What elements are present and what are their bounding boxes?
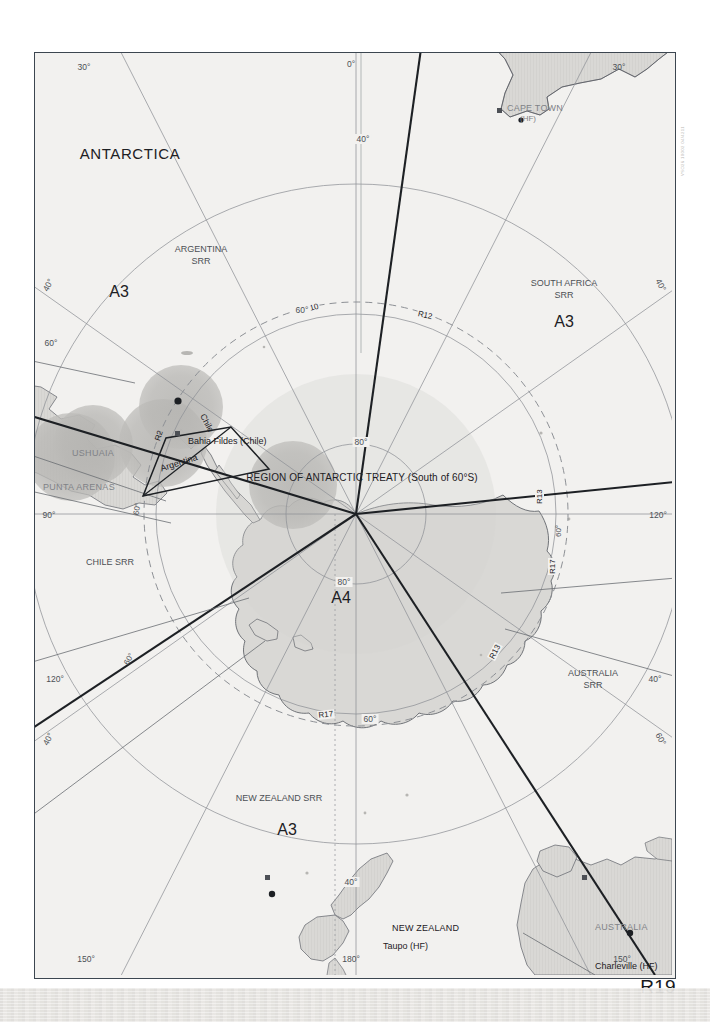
- meridian-label-150w-bottom: 150°: [77, 954, 95, 964]
- route-label-r13-east: R13: [535, 488, 544, 505]
- meridian-label-0-top: 0°: [347, 59, 355, 69]
- station-label-taupo: Taupo (HF): [383, 941, 428, 951]
- treaty-region-label: REGION OF ANTARCTIC TREATY (South of 60°…: [246, 472, 477, 483]
- srr-label-australia: AUSTRALIA: [568, 668, 618, 678]
- meridian-label-120e-right: 40°: [649, 674, 662, 684]
- latitude-label-40s-bottom: 40°: [343, 877, 360, 887]
- map-frame: ANTARCTICA ARGENTINA SRR SOUTH AFRICA SR…: [34, 52, 676, 979]
- airspace-class-a4-treaty: A4: [331, 589, 351, 607]
- srr-label-chile: CHILE SRR: [86, 557, 134, 567]
- meridian-label-60-left: 60°: [45, 338, 58, 348]
- meridian-label-30w-top: 30°: [78, 62, 91, 72]
- latitude-label-60s-bottom: 60°: [362, 714, 379, 724]
- route-label-r17-east: R17: [548, 558, 557, 575]
- station-label-cape-town: CAPE TOWN: [507, 103, 563, 113]
- srr-label-new-zealand: NEW ZEALAND SRR: [236, 793, 323, 803]
- chart-page: ANTARCTICA ARGENTINA SRR SOUTH AFRICA SR…: [0, 0, 710, 1022]
- meridian-label-90e-right: 120°: [649, 510, 667, 520]
- meridian-label-30e-top: 30°: [613, 62, 626, 72]
- latitude-label-60s-top: 60°: [294, 305, 311, 315]
- meridian-label-120-left: 120°: [46, 674, 64, 684]
- srr-label-argentina-srr: SRR: [191, 256, 210, 266]
- station-label-new-zealand: NEW ZEALAND: [392, 923, 459, 933]
- scan-edge-artifact: [0, 988, 710, 1022]
- route-label-r17-south: R17: [317, 709, 335, 720]
- srr-label-south-africa-srr: SRR: [554, 290, 573, 300]
- latitude-label-80s-bottom: 80°: [336, 577, 353, 587]
- meridian-label-90w-left: 90°: [43, 510, 56, 520]
- treaty-label-60s-east: 60°: [554, 525, 563, 537]
- srr-label-argentina: ARGENTINA: [175, 244, 228, 254]
- airspace-class-a3-argentina: A3: [109, 283, 129, 301]
- meridian-label-180-bottom: 180°: [342, 954, 360, 964]
- station-label-ushuaia: USHUAIA: [72, 448, 114, 458]
- station-label-bahia-fildes: Bahia Fildes (Chile): [188, 436, 267, 446]
- station-label-punta-arenas: PUNTA ARENAS: [43, 482, 115, 492]
- srr-label-australia-srr: SRR: [583, 680, 602, 690]
- srr-label-south-africa: SOUTH AFRICA: [531, 278, 598, 288]
- station-label-australia: AUSTRALIA: [595, 922, 648, 932]
- station-label-cape-town-hf: (HF): [520, 114, 536, 123]
- landmass-australia: [517, 853, 672, 975]
- publisher-credit: VSO26 10002 04/4211: [676, 56, 690, 176]
- latitude-label-40n-top: 40°: [355, 134, 372, 144]
- meridian-label-150e-bottom: 150°: [613, 954, 631, 964]
- latitude-label-80s-top: 80°: [353, 437, 370, 447]
- airspace-class-a3-new-zealand: A3: [277, 821, 297, 839]
- map-title: ANTARCTICA: [80, 145, 181, 162]
- airspace-class-a3-south-africa: A3: [554, 313, 574, 331]
